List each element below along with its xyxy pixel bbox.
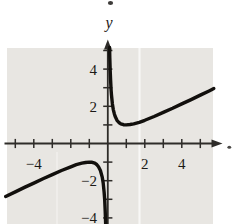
x-tick-label-2: 2 [141, 156, 149, 172]
y-axis-title: y [103, 14, 113, 32]
y-tick-label--4: −4 [81, 210, 97, 224]
x-axis-arrowhead [212, 140, 223, 148]
x-tick-label--4: −4 [26, 156, 42, 172]
y-tick-label-4: 4 [90, 62, 98, 78]
y-tick-label--2: −2 [81, 173, 97, 189]
function-graph: −424 42−2−4 y [0, 0, 232, 224]
function-graph-figure: −424 42−2−4 y [0, 0, 232, 224]
stray-ink-dot-right [227, 146, 231, 149]
stray-ink-dot-top [108, 1, 113, 5]
y-tick-label-2: 2 [90, 99, 98, 115]
x-tick-label-4: 4 [178, 156, 186, 172]
